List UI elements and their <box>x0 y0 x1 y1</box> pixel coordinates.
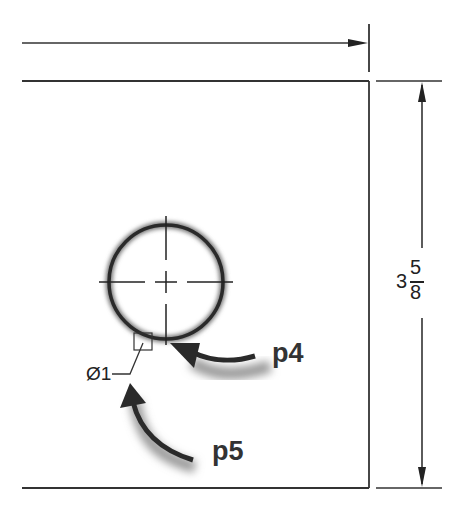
vertical-dimension-text: 3 5 8 <box>396 248 436 318</box>
p4-arrow <box>170 343 270 373</box>
dimension-numerator: 5 <box>410 256 421 279</box>
callout-p5: p5 <box>212 436 244 467</box>
center-mark <box>99 216 233 345</box>
p5-arrow <box>120 383 195 467</box>
hole-diameter-label: Ø1 <box>86 363 111 385</box>
part-outline <box>22 81 442 488</box>
callout-p4: p4 <box>272 338 304 369</box>
dimension-denominator: 8 <box>410 281 421 304</box>
dimension-whole: 3 <box>396 270 407 293</box>
horizontal-dimension-line <box>22 24 369 72</box>
diameter-leader <box>112 333 152 374</box>
